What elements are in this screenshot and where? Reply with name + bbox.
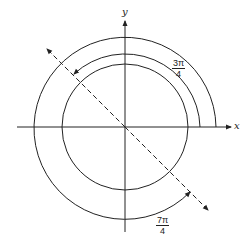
x-axis-label: x xyxy=(234,120,240,131)
diagram-canvas xyxy=(0,0,247,246)
label-numerator: 3π xyxy=(172,58,185,69)
label-numerator: 7π xyxy=(156,215,169,226)
label-three-pi-over-four: 3π 4 xyxy=(172,58,185,79)
angle-diagram: x y 3π 4 7π 4 xyxy=(0,0,247,246)
label-seven-pi-over-four: 7π 4 xyxy=(156,215,169,236)
y-axis-label: y xyxy=(122,6,128,17)
label-denominator: 4 xyxy=(172,69,185,79)
label-denominator: 4 xyxy=(156,226,169,236)
terminal-side-dashed-line-lower xyxy=(125,127,208,210)
terminal-side-dashed-line xyxy=(47,49,125,127)
